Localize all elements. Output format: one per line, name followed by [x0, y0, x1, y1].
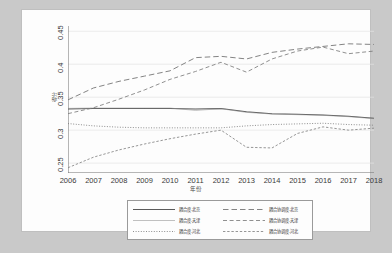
- series-line-1: [68, 108, 374, 118]
- series-line-6: [68, 127, 374, 168]
- legend-items: 耦合度-北京耦合协调度-北京耦合度-天津耦合协调度-天津耦合度-河北耦合协调度-…: [132, 204, 308, 236]
- legend-line-sample: [132, 228, 176, 235]
- legend-item[interactable]: 耦合协调度-北京: [222, 204, 308, 215]
- legend-label: 耦合度-天津: [179, 218, 200, 223]
- x-axis-title: 年份: [22, 185, 370, 193]
- legend-line-sample: [132, 217, 176, 224]
- legend-label: 耦合度-河北: [179, 229, 200, 234]
- legend-label: 耦合协调度-天津: [269, 218, 298, 223]
- x-tick-label: 2018: [359, 176, 389, 185]
- chart-screenshot: 得分 0.250.30.350.40.45 200620072008200920…: [0, 0, 392, 253]
- series-line-2: [68, 108, 374, 119]
- legend-box: 耦合度-北京耦合协调度-北京耦合度-天津耦合协调度-天津耦合度-河北耦合协调度-…: [127, 200, 313, 240]
- legend-line-sample: [132, 206, 176, 213]
- figure-panel: 得分 0.250.30.350.40.45 200620072008200920…: [22, 10, 370, 231]
- legend-line-sample: [222, 206, 266, 213]
- legend-label: 耦合协调度-河北: [269, 229, 298, 234]
- y-tick-label: 0.45: [56, 26, 65, 41]
- y-tick-label: 0.35: [56, 92, 65, 107]
- legend-label: 耦合度-北京: [179, 207, 200, 212]
- series-line-4: [68, 44, 374, 100]
- y-tick-label: 0.3: [56, 129, 65, 139]
- legend-line-sample: [222, 228, 266, 235]
- series-line-5: [68, 47, 374, 114]
- legend-item[interactable]: 耦合协调度-河北: [222, 226, 308, 237]
- legend-item[interactable]: 耦合度-天津: [132, 215, 218, 226]
- legend-item[interactable]: 耦合度-北京: [132, 204, 218, 215]
- y-tick-label: 0.25: [56, 158, 65, 173]
- plot-area: [68, 26, 374, 173]
- legend-line-sample: [222, 217, 266, 224]
- y-tick-label: 0.4: [56, 63, 65, 73]
- legend-label: 耦合协调度-北京: [269, 207, 298, 212]
- legend-item[interactable]: 耦合协调度-天津: [222, 215, 308, 226]
- series-canvas: [68, 26, 374, 173]
- legend-item[interactable]: 耦合度-河北: [132, 226, 218, 237]
